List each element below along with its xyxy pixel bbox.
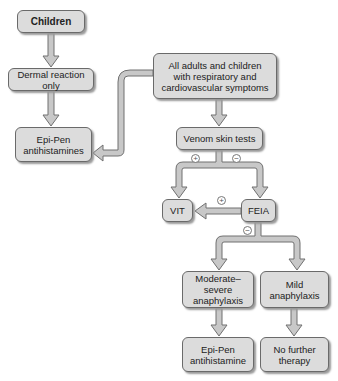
node-mild-anaphylaxis: Mild anaphylaxis xyxy=(260,271,329,308)
node-feia: FEIA xyxy=(241,199,276,222)
node-epipen-left-line2: antihistamines xyxy=(23,145,84,156)
node-children: Children xyxy=(17,10,85,33)
node-adults-line3: cardiovascular symptoms xyxy=(161,82,268,93)
node-vit: VIT xyxy=(162,199,193,222)
node-no-further-therapy: No further therapy xyxy=(260,337,329,372)
node-adults-line2: with respiratory and xyxy=(174,71,257,82)
node-epipen-left-line1: Epi-Pen xyxy=(37,134,71,145)
node-venom-skin-tests: Venom skin tests xyxy=(176,127,263,150)
sign-venom-positive: + xyxy=(191,154,200,163)
node-adults-children-symptoms: All adults and children with respiratory… xyxy=(153,53,277,99)
node-modsev-line1: Moderate–severe xyxy=(186,273,250,295)
node-dermal-label: Dermal reaction only xyxy=(12,69,90,91)
node-epipen-right-line2: antihistamine xyxy=(190,355,246,366)
node-epipen-right-line1: Epi-Pen xyxy=(201,344,235,355)
node-mild-line1: Mild xyxy=(286,279,303,290)
node-epipen-antihistamines-left: Epi-Pen antihistamines xyxy=(15,127,92,162)
node-epipen-antihistamine-right: Epi-Pen antihistamine xyxy=(182,337,254,372)
node-adults-line1: All adults and children xyxy=(169,60,262,71)
node-venom-label: Venom skin tests xyxy=(184,133,256,144)
sign-feia-positive: + xyxy=(217,196,226,205)
node-nofurther-line2: therapy xyxy=(279,355,311,366)
node-feia-label: FEIA xyxy=(248,205,269,216)
sign-venom-negative: − xyxy=(232,154,241,163)
node-children-label: Children xyxy=(31,16,72,27)
node-mild-line2: anaphylaxis xyxy=(269,290,319,301)
sign-feia-negative: − xyxy=(243,226,252,235)
node-vit-label: VIT xyxy=(170,205,185,216)
node-nofurther-line1: No further xyxy=(273,344,315,355)
node-dermal-reaction: Dermal reaction only xyxy=(8,68,94,91)
node-modsev-line2: anaphylaxis xyxy=(193,295,243,306)
node-moderate-severe-anaphylaxis: Moderate–severe anaphylaxis xyxy=(182,271,254,308)
